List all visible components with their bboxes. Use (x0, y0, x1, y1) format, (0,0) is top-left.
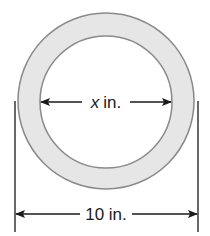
annulus-diagram: xin. 10 in. (0, 0, 210, 236)
inner-unit: in. (103, 93, 121, 112)
inner-variable: x (90, 93, 100, 112)
inner-dimension-label: xin. (90, 93, 121, 112)
outer-dimension-label: 10 in. (85, 205, 127, 224)
